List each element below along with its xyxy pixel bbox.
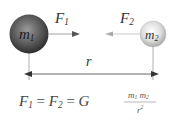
- formula-lhs: F1 = F2 = G: [19, 94, 89, 111]
- distance-label: r: [86, 55, 91, 69]
- fraction-denominator: r2: [137, 105, 143, 115]
- mass1-label: m1: [19, 27, 35, 44]
- force2-arrow: [105, 32, 140, 37]
- mass2-label: m2: [145, 28, 158, 43]
- force1-arrow: [49, 31, 80, 37]
- force1-label: F1: [55, 11, 69, 28]
- distance-arrow: [24, 71, 159, 77]
- force2-label: F2: [120, 11, 134, 28]
- fraction-numerator: m1 m2: [128, 91, 149, 101]
